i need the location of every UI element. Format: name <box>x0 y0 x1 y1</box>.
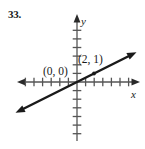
point-label-2-1: (2, 1) <box>78 54 103 66</box>
y-axis-label: y <box>81 16 86 27</box>
exercise-number: 33. <box>8 9 21 20</box>
point-label-origin: (0, 0) <box>43 66 68 78</box>
x-axis-left-arrowhead-icon <box>17 79 26 86</box>
graph-figure: 33. <box>0 0 145 149</box>
x-axis-right-arrowhead-icon <box>132 79 141 86</box>
y-axis-arrowhead-icon <box>74 14 81 23</box>
plotted-line-right-arrowhead-icon <box>126 52 136 59</box>
y-axis-group <box>73 14 82 141</box>
x-axis-label: x <box>131 89 136 100</box>
plotted-line-left-arrowhead-icon <box>16 105 26 112</box>
point-marker-2-1 <box>92 72 96 76</box>
coordinate-plane-svg <box>0 0 145 149</box>
